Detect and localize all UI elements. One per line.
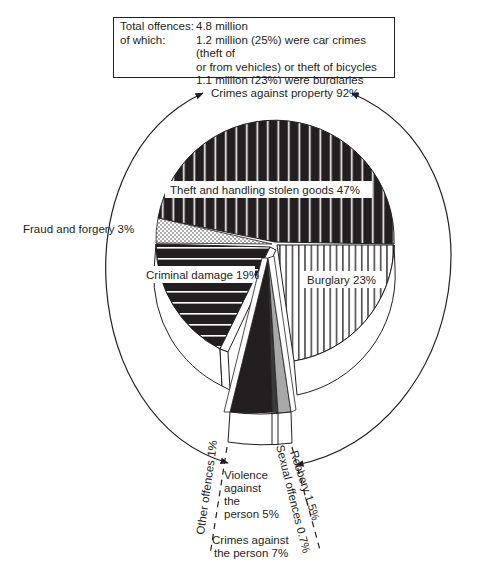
- label-violence-1: Violence: [224, 469, 268, 481]
- label-burglary: Burglary 23%: [307, 274, 376, 286]
- label-fraud: Fraud and forgery 3%: [23, 223, 134, 235]
- slice-burglary: [277, 245, 394, 361]
- label-theft: Theft and handling stolen goods 47%: [170, 184, 360, 196]
- label-other-offences: Other offences 1%: [194, 439, 219, 535]
- slice-other-offences-side: [220, 349, 230, 390]
- label-person-group-2: the person 7%: [214, 547, 288, 559]
- label-property-group: Crimes against property 92%: [211, 87, 359, 99]
- label-violence-3: the: [224, 495, 240, 507]
- label-violence-2: against: [224, 482, 262, 494]
- label-person-group-1: Crimes against: [212, 534, 289, 546]
- label-violence-4: person 5%: [224, 508, 279, 520]
- label-criminal-damage: Criminal damage 19%: [146, 269, 259, 281]
- slice-person-side: [228, 412, 292, 445]
- pie-chart: Theft and handling stolen goods 47% Crim…: [0, 0, 490, 580]
